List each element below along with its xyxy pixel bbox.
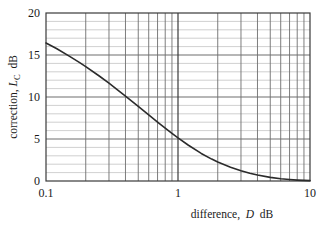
- y-tick-label: 10: [28, 90, 40, 104]
- x-tick-label: 0.1: [39, 186, 54, 200]
- chart-figure: 05101520 0.1110 correction, LC dB differ…: [0, 0, 325, 228]
- svg-text:difference, D dB: difference, D dB: [191, 208, 274, 221]
- y-tick-label: 20: [28, 6, 40, 20]
- x-tick-label: 1: [175, 186, 181, 200]
- x-axis-title: difference, D dB: [191, 208, 274, 221]
- y-tick-label: 5: [34, 132, 40, 146]
- x-tick-label: 10: [304, 186, 316, 200]
- correction-vs-difference-chart: 05101520 0.1110 correction, LC dB differ…: [0, 0, 325, 228]
- y-tick-label: 15: [28, 48, 40, 62]
